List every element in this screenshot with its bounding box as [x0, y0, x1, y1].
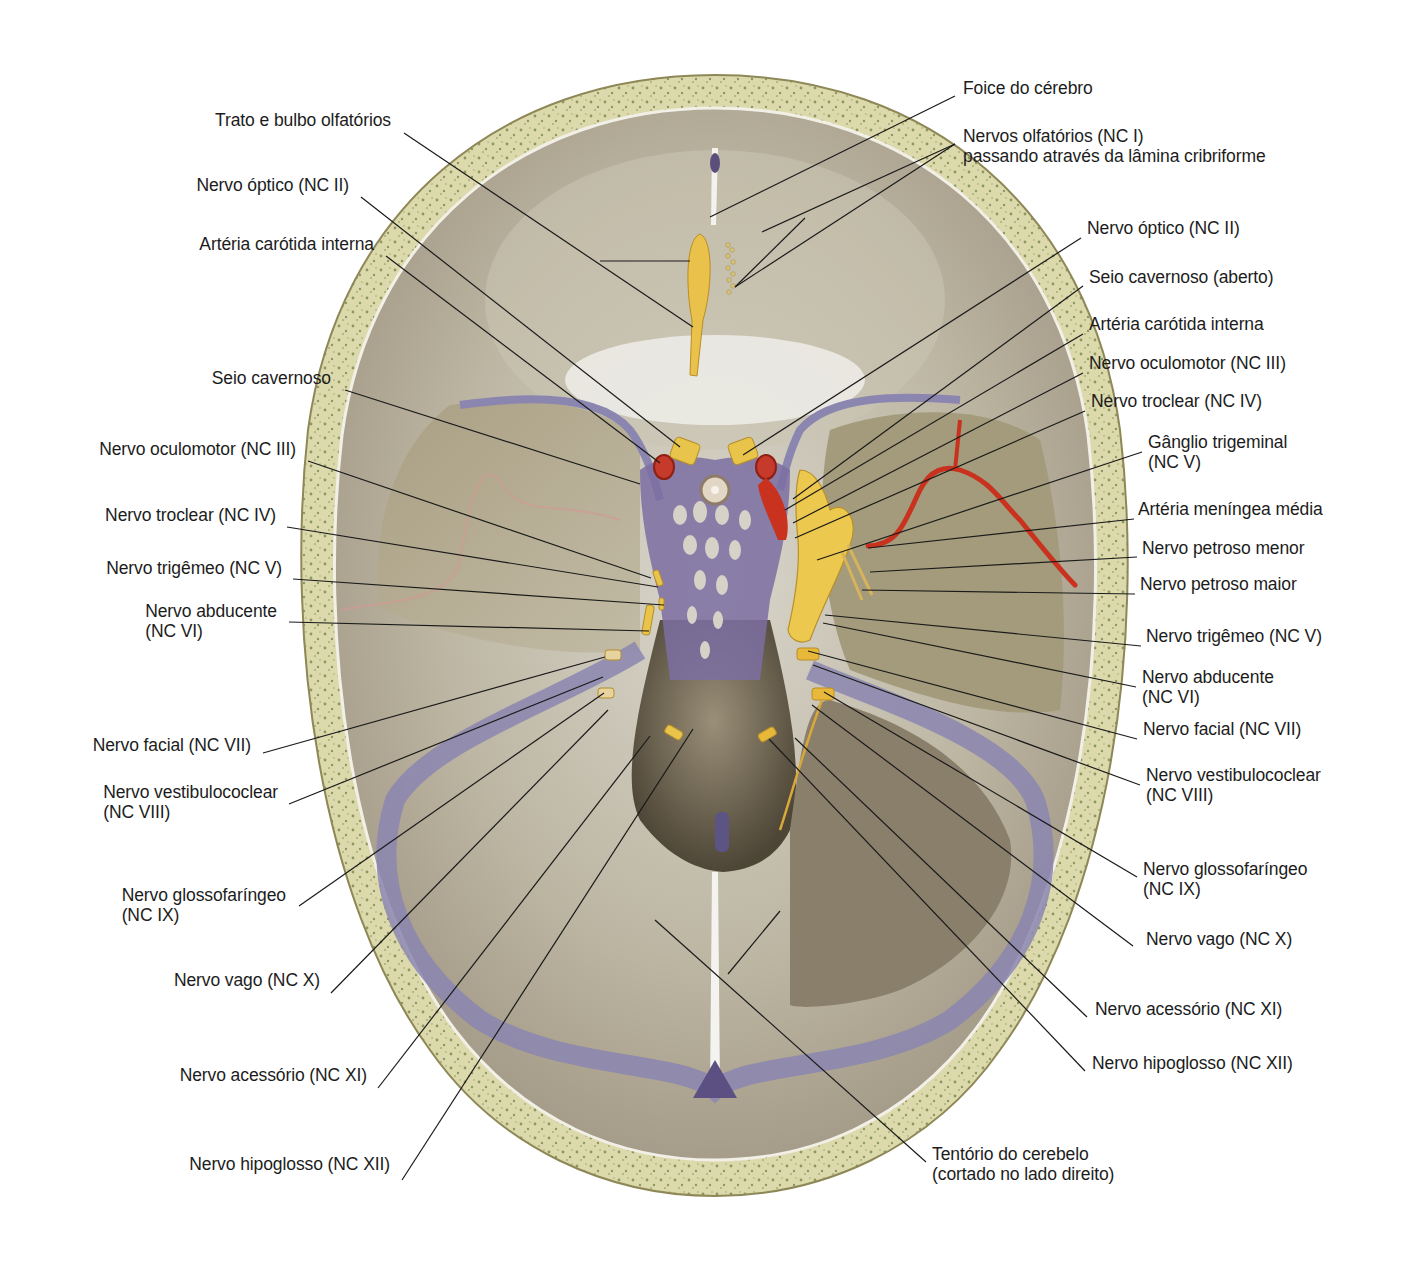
label-arteria-carotida-interna-l: Artéria carótida interna — [199, 234, 374, 254]
label-nervo-acessorio-l: Nervo acessório (NC XI) — [180, 1065, 367, 1085]
label-nervo-vestibulococlear-r: Nervo vestibulococlear (NC VIII) — [1146, 765, 1321, 805]
label-seio-cavernoso-aberto: Seio cavernoso (aberto) — [1089, 267, 1273, 287]
label-nervo-acessorio-r: Nervo acessório (NC XI) — [1095, 999, 1282, 1019]
label-arteria-meningea-media: Artéria meníngea média — [1138, 499, 1323, 519]
label-trato-bulbo-olfatorios: Trato e bulbo olfatórios — [215, 110, 391, 130]
label-nervo-oculomotor-l: Nervo oculomotor (NC III) — [99, 439, 296, 459]
label-arteria-carotida-interna-r: Artéria carótida interna — [1089, 314, 1264, 334]
internal-carotid-artery-right — [756, 455, 776, 479]
label-nervo-trigemeo-l: Nervo trigêmeo (NC V) — [106, 558, 282, 578]
vein-stub-inferior — [715, 812, 729, 852]
label-nervo-petroso-maior: Nervo petroso maior — [1140, 574, 1297, 594]
label-nervo-facial-l: Nervo facial (NC VII) — [93, 735, 251, 755]
label-nervo-optico-l: Nervo óptico (NC II) — [196, 175, 349, 195]
label-nervo-vestibulococlear-l: Nervo vestibulococlear (NC VIII) — [103, 782, 278, 822]
label-ganglio-trigeminal: Gânglio trigeminal (NC V) — [1148, 432, 1287, 472]
label-nervo-oculomotor-r: Nervo oculomotor (NC III) — [1089, 353, 1286, 373]
label-nervo-hipoglosso-r: Nervo hipoglosso (NC XII) — [1092, 1053, 1293, 1073]
label-nervo-vago-r: Nervo vago (NC X) — [1146, 929, 1292, 949]
label-nervo-abducente-l: Nervo abducente (NC VI) — [145, 601, 277, 641]
middle-cranial-fossa-right — [822, 412, 1064, 712]
label-nervo-glossofaringeo-r: Nervo glossofaríngeo (NC IX) — [1143, 859, 1307, 899]
label-nervo-facial-r: Nervo facial (NC VII) — [1143, 719, 1301, 739]
label-nervo-hipoglosso-l: Nervo hipoglosso (NC XII) — [189, 1154, 390, 1174]
label-nervo-petroso-menor: Nervo petroso menor — [1142, 538, 1304, 558]
pituitary-center — [711, 486, 719, 494]
label-nervo-vago-l: Nervo vago (NC X) — [174, 970, 320, 990]
label-foice-do-cerebro: Foice do cérebro — [963, 78, 1093, 98]
label-nervo-trigemeo-r: Nervo trigêmeo (NC V) — [1146, 626, 1322, 646]
label-nervos-olfatorios: Nervos olfatórios (NC I) passando atravé… — [963, 126, 1266, 166]
label-nervo-abducente-r: Nervo abducente (NC VI) — [1142, 667, 1274, 707]
superior-sagittal-sinus-front — [710, 153, 720, 173]
label-nervo-glossofaringeo-l: Nervo glossofaríngeo (NC IX) — [122, 885, 286, 925]
internal-carotid-artery-left — [654, 455, 674, 479]
label-nervo-optico-r: Nervo óptico (NC II) — [1087, 218, 1240, 238]
label-tentorio-do-cerebelo: Tentório do cerebelo (cortado no lado di… — [932, 1144, 1114, 1184]
label-seio-cavernoso-l: Seio cavernoso — [212, 368, 331, 388]
label-nervo-troclear-r: Nervo troclear (NC IV) — [1091, 391, 1262, 411]
label-nervo-troclear-l: Nervo troclear (NC IV) — [105, 505, 276, 525]
